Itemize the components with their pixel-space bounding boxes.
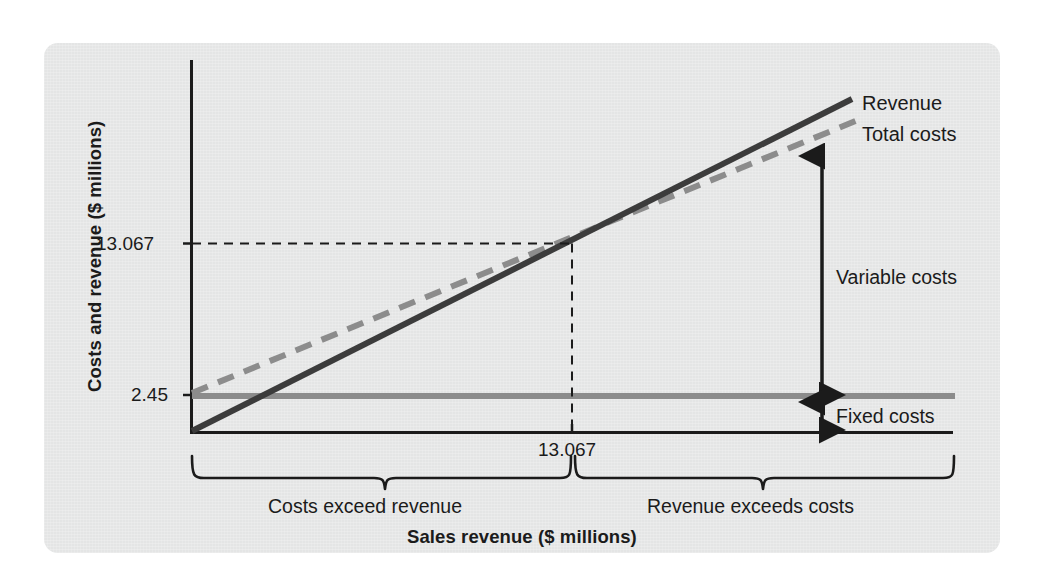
legend-label-total-costs: Total costs (862, 124, 956, 144)
x-tick-label-breakeven: 13.067 (538, 440, 596, 459)
chart-figure: Costs and revenue ($ millions) 13.067 2.… (0, 0, 1040, 585)
revenue-line (192, 99, 852, 431)
y-tick-label-breakeven: 13.067 (96, 234, 154, 253)
y-axis-title: Costs and revenue ($ millions) (86, 121, 105, 392)
annotation-costs-exceed-revenue: Costs exceed revenue (268, 497, 462, 517)
y-tick-label-fixed: 2.45 (131, 385, 168, 404)
annotation-revenue-exceeds-costs: Revenue exceeds costs (647, 497, 854, 517)
annotation-fixed-costs: Fixed costs (836, 407, 935, 427)
annotation-variable-costs: Variable costs (836, 268, 957, 288)
legend-label-revenue: Revenue (862, 93, 942, 113)
x-axis-title: Sales revenue ($ millions) (407, 528, 637, 547)
break-even-chart-canvas (0, 0, 1040, 585)
total-costs-line (192, 120, 858, 393)
left-brace (192, 456, 571, 489)
right-brace (575, 456, 954, 489)
